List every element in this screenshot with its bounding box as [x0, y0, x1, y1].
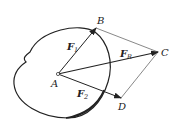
force-parallelogram-diagram: A B C D F1 FR F2: [0, 0, 184, 137]
label-F2: F2: [76, 88, 88, 101]
label-C: C: [161, 47, 169, 58]
vector-F2: [58, 74, 121, 98]
label-F1: F1: [66, 41, 78, 54]
label-B: B: [96, 15, 104, 26]
label-A: A: [50, 78, 58, 89]
point-A-marker: [56, 72, 59, 75]
label-D: D: [117, 101, 126, 112]
